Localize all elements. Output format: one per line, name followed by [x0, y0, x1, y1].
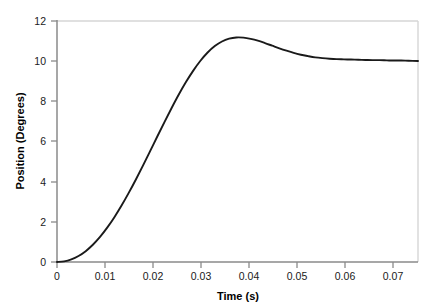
y-tick-label: 0 — [40, 256, 46, 268]
y-tick-label: 8 — [40, 95, 46, 107]
x-tick-label: 0.04 — [239, 270, 260, 282]
y-tick-label: 12 — [34, 15, 46, 27]
x-tick-label: 0.02 — [143, 270, 164, 282]
x-axis-ticks — [57, 262, 393, 268]
y-tick-label: 6 — [40, 135, 46, 147]
x-tick-label: 0.03 — [191, 270, 212, 282]
x-tick-label: 0.05 — [287, 270, 308, 282]
y-axis-ticks — [51, 21, 57, 262]
y-axis-tick-labels: 12 10 8 6 4 2 0 — [34, 15, 46, 268]
data-series-line — [57, 37, 418, 262]
x-tick-label: 0.06 — [335, 270, 356, 282]
x-tick-label: 0.07 — [383, 270, 404, 282]
x-axis-tick-labels: 0 0.01 0.02 0.03 0.04 0.05 0.06 0.07 — [54, 270, 403, 282]
y-tick-label: 10 — [34, 55, 46, 67]
x-axis-title: Time (s) — [217, 290, 259, 302]
y-axis-title: Position (Degrees) — [14, 92, 26, 190]
step-response-chart: 12 10 8 6 4 2 0 0 0.01 0.02 0.03 0.04 0. — [0, 0, 445, 307]
chart-figure: 12 10 8 6 4 2 0 0 0.01 0.02 0.03 0.04 0. — [0, 0, 445, 307]
x-tick-label: 0.01 — [95, 270, 116, 282]
y-tick-label: 2 — [40, 216, 46, 228]
x-tick-label: 0 — [54, 270, 60, 282]
y-tick-label: 4 — [40, 176, 46, 188]
